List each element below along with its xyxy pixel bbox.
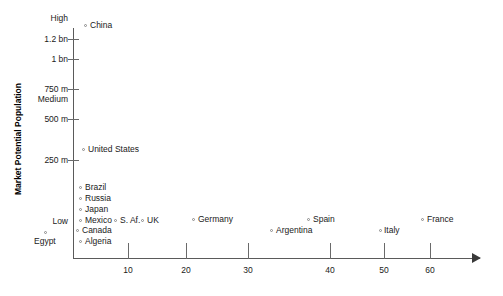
data-point-label: Russia — [85, 193, 111, 203]
y-band-label: High — [4, 13, 68, 23]
data-point-label: Spain — [313, 214, 335, 224]
data-point-marker[interactable] — [79, 197, 82, 200]
data-point-marker[interactable] — [270, 229, 273, 232]
x-tick-mark — [128, 243, 129, 259]
data-point-label: France — [427, 214, 453, 224]
x-tick-label: 10 — [113, 265, 143, 275]
data-point-marker[interactable] — [192, 218, 195, 221]
y-tick-mark — [68, 59, 79, 60]
data-point-marker[interactable] — [114, 219, 117, 222]
data-point-label: Egypt — [34, 236, 56, 246]
data-point-label: UK — [147, 215, 159, 225]
data-point-marker[interactable] — [421, 218, 424, 221]
market-potential-scatter-chart: Market Potential Population 1.2 bn1 bn75… — [0, 0, 503, 296]
x-axis-line — [73, 258, 480, 259]
data-point-marker[interactable] — [307, 218, 310, 221]
y-tick-mark — [68, 89, 79, 90]
data-point-label: S. Af. — [120, 215, 140, 225]
y-axis-line — [73, 28, 74, 259]
data-point-label: Mexico — [85, 215, 112, 225]
y-tick-label: 1 bn — [4, 54, 68, 64]
data-point-label: United States — [88, 144, 139, 154]
x-tick-label: 40 — [315, 265, 345, 275]
data-point-label: Argentina — [276, 225, 312, 235]
x-tick-mark — [430, 243, 431, 259]
data-point-marker[interactable] — [79, 240, 82, 243]
data-point-marker[interactable] — [84, 24, 87, 27]
x-tick-label: 50 — [369, 265, 399, 275]
data-point-marker[interactable] — [79, 219, 82, 222]
data-point-label: Algeria — [85, 236, 111, 246]
data-point-label: Canada — [82, 225, 112, 235]
data-point-label: Italy — [384, 225, 400, 235]
x-tick-label: 20 — [171, 265, 201, 275]
x-axis-arrow-icon — [472, 253, 481, 263]
data-point-marker[interactable] — [79, 208, 82, 211]
x-tick-label: 30 — [233, 265, 263, 275]
x-tick-label: 60 — [415, 265, 445, 275]
y-tick-mark — [68, 119, 79, 120]
data-point-marker[interactable] — [379, 229, 382, 232]
y-tick-mark — [68, 39, 79, 40]
data-point-marker[interactable] — [44, 231, 47, 234]
y-band-label: Medium — [4, 94, 68, 104]
data-point-marker[interactable] — [141, 219, 144, 222]
y-tick-mark — [68, 160, 79, 161]
y-tick-label: 1.2 bn — [4, 34, 68, 44]
y-tick-label: 250 m — [4, 155, 68, 165]
y-tick-label: 500 m — [4, 114, 68, 124]
data-point-label: Germany — [198, 214, 233, 224]
data-point-label: Japan — [85, 204, 108, 214]
data-point-label: China — [90, 20, 112, 30]
data-point-marker[interactable] — [82, 148, 85, 151]
data-point-marker[interactable] — [76, 229, 79, 232]
data-point-label: Brazil — [85, 182, 106, 192]
x-tick-mark — [384, 243, 385, 259]
x-tick-mark — [248, 243, 249, 259]
data-point-marker[interactable] — [79, 186, 82, 189]
y-tick-label: 750 m — [4, 84, 68, 94]
x-tick-mark — [186, 243, 187, 259]
x-tick-mark — [330, 243, 331, 259]
y-band-label: Low — [4, 216, 68, 226]
